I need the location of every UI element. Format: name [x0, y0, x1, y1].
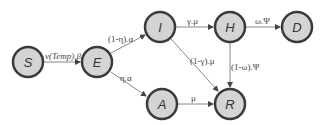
- svg-text:A: A: [157, 97, 167, 112]
- svg-text:R: R: [225, 97, 234, 112]
- label-i-h: γ.μ: [186, 16, 198, 26]
- label-a-r: μ: [191, 93, 196, 103]
- label-e-a: η.α: [120, 73, 132, 83]
- node-i: I: [145, 12, 175, 42]
- label-h-d: ω.Ψ: [255, 16, 270, 26]
- svg-text:H: H: [225, 20, 235, 35]
- svg-text:S: S: [24, 55, 33, 70]
- node-s: S: [13, 47, 43, 77]
- label-e-i: (1-η).α: [108, 34, 133, 44]
- label-h-r: (1-ω).Ψ: [231, 62, 260, 72]
- compartment-diagram: ν(Temp).β (1-η).α η.α γ.μ (1-γ).μ ω.Ψ (1…: [0, 0, 324, 125]
- node-d: D: [282, 12, 312, 42]
- node-h: H: [215, 12, 245, 42]
- node-a: A: [147, 89, 177, 119]
- node-e: E: [82, 47, 112, 77]
- label-s-e: ν(Temp).β: [45, 51, 81, 61]
- svg-text:D: D: [292, 20, 301, 35]
- node-r: R: [215, 89, 245, 119]
- label-i-r: (1-γ).μ: [190, 56, 215, 66]
- svg-text:I: I: [158, 20, 162, 35]
- svg-text:E: E: [93, 55, 102, 70]
